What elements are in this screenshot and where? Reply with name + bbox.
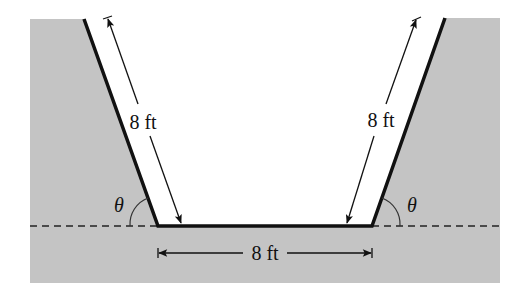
trapezoid-channel-diagram: 8 ft 8 ft 8 ft θ θ (0, 0, 517, 294)
bottom-label: 8 ft (251, 242, 279, 264)
left-angle-label: θ (114, 194, 124, 216)
right-angle-label: θ (407, 194, 417, 216)
right-side-label: 8 ft (367, 109, 395, 131)
left-side-label: 8 ft (129, 111, 157, 133)
